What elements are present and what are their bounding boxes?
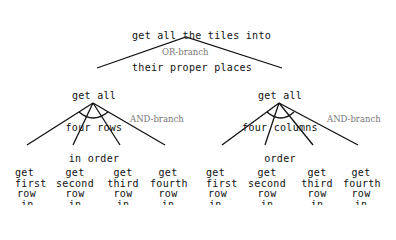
node-text-line: in: [301, 200, 333, 206]
node-text-line: in: [343, 200, 379, 206]
node-text-line: in: [247, 200, 287, 206]
node-text-line: row: [150, 189, 186, 200]
columns-line-2: four columns: [240, 123, 320, 134]
node-text-line: row: [107, 189, 139, 200]
node-text-line: get: [343, 168, 379, 179]
node-text-line: in: [107, 200, 139, 206]
node-text-line: in: [206, 200, 238, 206]
node-text-line: get: [301, 168, 333, 179]
leaf-rows-2: getsecondrowinorder: [55, 147, 95, 205]
node-text-line: in: [55, 200, 95, 206]
leaf-columns-3: getthirdrowinorder: [301, 147, 333, 205]
or-branch-label: OR-branch: [162, 47, 209, 57]
leaf-columns-4: getfourthrowinorder: [343, 147, 379, 205]
node-text-line: in: [150, 200, 186, 206]
rows-line-2: four rows: [58, 123, 130, 134]
leaf-rows-1: getfirstrowinorder: [15, 147, 47, 205]
leaf-rows-4: getfourthrowinorder: [150, 147, 186, 205]
leaf-rows-3: getthirdrowinorder: [107, 147, 139, 205]
leaf-columns-1: getfirstrowinorder: [206, 147, 238, 205]
rows-line-1: get all: [58, 91, 130, 102]
node-text-line: get: [247, 168, 287, 179]
node-text-line: row: [343, 189, 379, 200]
and-branch-label-right: AND-branch: [327, 114, 381, 124]
root-line-1: get all the tiles into: [132, 31, 252, 42]
node-text-line: row: [247, 189, 287, 200]
node-text-line: get: [206, 168, 238, 179]
node-text-line: get: [150, 168, 186, 179]
leaf-columns-2: getsecondrowinorder: [247, 147, 287, 205]
node-text-line: in: [15, 200, 47, 206]
node-text-line: row: [15, 189, 47, 200]
node-text-line: get: [107, 168, 139, 179]
node-text-line: get: [55, 168, 95, 179]
node-text-line: row: [301, 189, 333, 200]
node-text-line: row: [55, 189, 95, 200]
root-line-2: their proper places: [132, 63, 252, 74]
node-text-line: get: [15, 168, 47, 179]
node-text-line: row: [206, 189, 238, 200]
columns-line-1: get all: [240, 91, 320, 102]
and-branch-label-left: AND-branch: [130, 114, 184, 124]
